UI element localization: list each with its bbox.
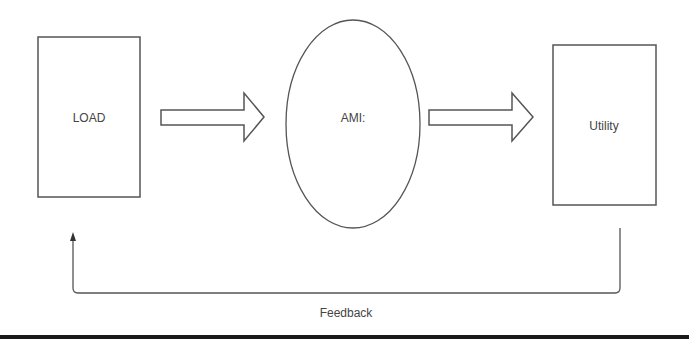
block-arrow-ami-to-utility	[429, 93, 533, 141]
utility-node: Utility	[553, 45, 656, 205]
feedback-connector	[70, 228, 620, 293]
utility-label: Utility	[589, 119, 618, 133]
bottom-border-bar	[0, 335, 689, 339]
load-label: LOAD	[73, 111, 106, 125]
feedback-label: Feedback	[320, 306, 374, 320]
arrowhead-icon	[70, 232, 76, 241]
ami-label: AMI:	[341, 111, 366, 125]
load-node: LOAD	[38, 37, 140, 197]
diagram-canvas: LOAD AMI: Utility Feedback	[0, 0, 689, 339]
block-arrow-load-to-ami	[161, 93, 264, 141]
diagram-svg: LOAD AMI: Utility Feedback	[0, 0, 689, 339]
ami-node: AMI:	[286, 20, 420, 228]
